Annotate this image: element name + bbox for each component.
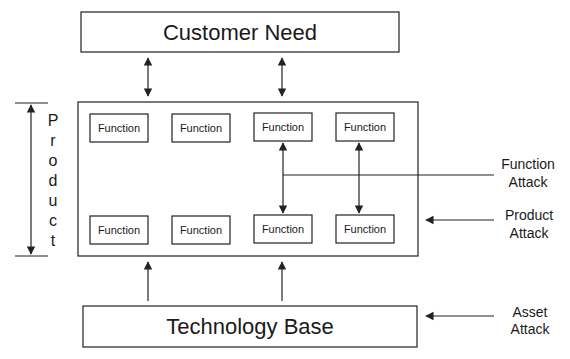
svg-text:Attack: Attack: [510, 225, 550, 241]
function-label: Function: [262, 121, 304, 133]
asset-attack-label: Asset Attack: [511, 304, 551, 337]
product-attack-label: Product Attack: [505, 207, 553, 241]
svg-text:d: d: [49, 172, 58, 189]
function-label: Function: [180, 224, 222, 236]
svg-text:r: r: [50, 132, 56, 149]
svg-text:u: u: [49, 192, 58, 209]
svg-text:Asset: Asset: [512, 304, 547, 320]
function-label: Function: [262, 223, 304, 235]
customer-need-box: Customer Need: [81, 12, 399, 52]
technology-base-label: Technology Base: [166, 314, 334, 339]
product-vertical-label: P r o d u c t: [48, 112, 59, 249]
svg-text:Attack: Attack: [511, 321, 551, 337]
function-label: Function: [344, 223, 386, 235]
svg-text:Attack: Attack: [509, 174, 549, 190]
svg-text:Product: Product: [505, 207, 553, 223]
product-span-indicator: [15, 103, 48, 256]
svg-text:Function: Function: [501, 156, 555, 172]
function-attack-label: Function Attack: [501, 156, 555, 190]
svg-text:o: o: [49, 152, 58, 169]
svg-text:c: c: [49, 212, 57, 229]
function-label: Function: [344, 121, 386, 133]
function-label: Function: [98, 224, 140, 236]
function-label: Function: [180, 122, 222, 134]
function-label: Function: [98, 122, 140, 134]
svg-text:t: t: [51, 232, 56, 249]
competition-diagram: Customer Need P r o d u c t Function Fun…: [0, 0, 570, 359]
technology-base-box: Technology Base: [83, 306, 417, 347]
customer-need-label: Customer Need: [163, 20, 317, 45]
svg-text:P: P: [48, 112, 59, 129]
